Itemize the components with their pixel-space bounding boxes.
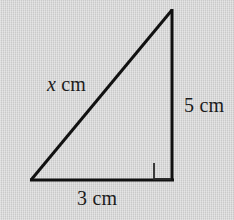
right-angle-marker-icon [154, 163, 171, 179]
hypotenuse-variable: x [47, 73, 56, 95]
hypotenuse-label: x cm [47, 74, 86, 94]
hypotenuse-unit: cm [56, 73, 86, 95]
right-triangle-figure: x cm 5 cm 3 cm [0, 0, 234, 220]
vertical-side-label: 5 cm [184, 95, 224, 115]
base-side-label: 3 cm [77, 188, 117, 208]
hypotenuse-line [31, 10, 172, 180]
